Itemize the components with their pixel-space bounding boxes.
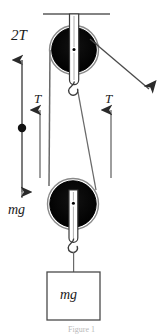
fixed-pulley: [50, 14, 99, 85]
label-block-weight: mg: [60, 288, 77, 302]
label-tension-total: 2T: [11, 28, 27, 43]
movable-pulley: [48, 179, 99, 243]
figure-caption: Figure 1: [0, 325, 163, 334]
label-weight-axis: mg: [8, 203, 25, 217]
label-tension-left: T: [34, 92, 41, 105]
rope-left-strand: [49, 50, 50, 186]
pulley-free-body-figure: 2T T T mg mg Figure 1: [0, 0, 163, 334]
diagram-canvas: [0, 0, 163, 334]
applied-force-arrow: [90, 39, 149, 89]
force-axis: [18, 60, 26, 198]
rope-right-strand: [78, 92, 96, 190]
label-tension-right: T: [105, 92, 112, 105]
